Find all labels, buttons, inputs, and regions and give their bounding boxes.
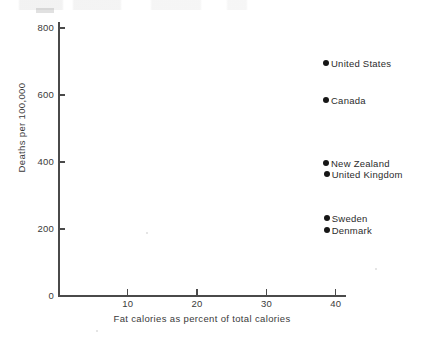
data-point-label: Sweden <box>332 212 368 223</box>
data-point-label: United States <box>331 58 391 69</box>
data-point[interactable] <box>323 160 329 166</box>
x-axis-label: Fat calories as percent of total calorie… <box>58 313 346 324</box>
data-point[interactable] <box>324 215 330 221</box>
y-tick-label: 200 <box>14 223 54 234</box>
x-tick-label-wrap: 40 <box>316 298 356 311</box>
x-tick-label: 10 <box>108 298 148 309</box>
data-point-label: New Zealand <box>331 158 390 169</box>
x-tick-label-wrap: 20 <box>177 298 217 311</box>
scan-artifact-mark <box>36 8 54 13</box>
plot-area <box>58 20 344 296</box>
x-tick-label: 40 <box>316 298 356 309</box>
x-tick-label-wrap: 10 <box>108 298 148 311</box>
data-point[interactable] <box>324 227 330 233</box>
x-tick-label: 30 <box>246 298 286 309</box>
scatter-chart-figure: 0200400600800 10203040 Fat calories as p… <box>0 0 429 341</box>
data-point[interactable] <box>323 97 329 103</box>
y-tick-label-wrap: 200 <box>14 223 54 235</box>
data-point-label: Denmark <box>332 225 372 236</box>
y-tick-label: 0 <box>14 290 54 301</box>
data-point-label: United Kingdom <box>332 169 403 180</box>
scan-artifact <box>0 0 429 10</box>
data-point-label: Canada <box>331 95 366 106</box>
x-tick-label: 20 <box>177 298 217 309</box>
x-tick-label-wrap: 30 <box>246 298 286 311</box>
y-axis-label: Deaths per 100,000 <box>16 63 27 193</box>
data-point[interactable] <box>324 171 330 177</box>
paper-speck <box>96 330 98 332</box>
paper-speck <box>375 268 377 270</box>
y-tick-label-wrap: 800 <box>14 22 54 34</box>
y-tick-label-wrap: 0 <box>14 290 54 302</box>
y-tick-label: 800 <box>14 22 54 33</box>
